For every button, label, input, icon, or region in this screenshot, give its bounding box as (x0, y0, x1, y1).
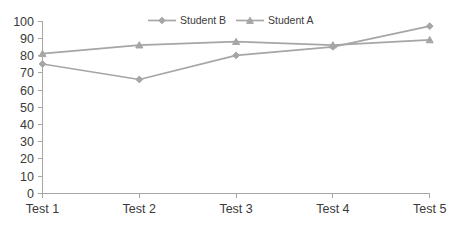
data-point-student-b-2[interactable] (136, 76, 143, 83)
chart-canvas: 100 90 80 70 60 50 40 30 20 10 0 Test 1 … (0, 0, 451, 225)
y-axis-label: 60 (20, 84, 34, 98)
data-point-student-b-1[interactable] (39, 61, 46, 68)
x-axis-label: Test 3 (219, 202, 252, 216)
data-point-student-b-3[interactable] (233, 52, 240, 59)
y-axis-label: 10 (20, 170, 34, 184)
y-axis-label: 90 (20, 32, 34, 46)
legend-entry-student-a[interactable]: Student A (236, 14, 314, 26)
legend: Student B Student A (148, 14, 314, 26)
data-point-student-b-5[interactable] (426, 23, 433, 30)
y-axis-label: 50 (20, 101, 34, 115)
y-axis-label: 80 (20, 49, 34, 63)
legend-entry-student-b[interactable]: Student B (148, 14, 226, 26)
legend-label-student-b: Student B (180, 14, 226, 26)
x-axis-label: Test 2 (123, 202, 156, 216)
series-layer (39, 23, 433, 83)
y-axis-label: 0 (27, 187, 34, 201)
x-axis-label: Test 1 (26, 202, 59, 216)
series-student-b (39, 23, 433, 83)
y-axis-label: 100 (13, 15, 34, 29)
line-chart: 100 90 80 70 60 50 40 30 20 10 0 Test 1 … (0, 0, 451, 225)
y-axis-label: 30 (20, 135, 34, 149)
y-axis-label: 20 (20, 152, 34, 166)
x-axis-label: Test 5 (413, 202, 446, 216)
diamond-marker-icon (159, 17, 165, 24)
x-axis-label: Test 4 (316, 202, 349, 216)
y-axis-label: 70 (20, 66, 34, 80)
x-axis-labels: Test 1 Test 2 Test 3 Test 4 Test 5 (26, 202, 447, 216)
legend-label-student-a: Student A (268, 14, 314, 26)
y-axis-label: 40 (20, 118, 34, 132)
y-axis-labels: 100 90 80 70 60 50 40 30 20 10 0 (13, 15, 34, 201)
